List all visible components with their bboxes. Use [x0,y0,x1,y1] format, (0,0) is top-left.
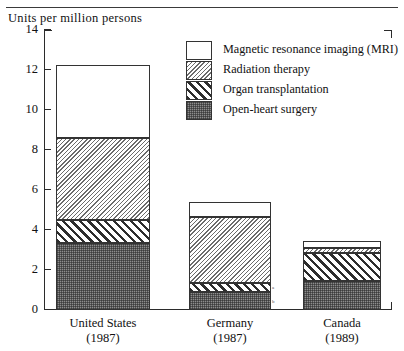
category-label-germany: Germany (1987) [180,316,280,345]
bar-united-states [56,65,150,310]
footnote-mark-b: b [272,299,275,304]
segment-us-radiation [56,138,150,220]
openheart-swatch-icon [186,101,212,120]
ytick-mark-6 [44,189,51,190]
ytick-mark-0 [44,309,51,310]
segment-germany-radiation [189,217,271,283]
ytick-label-10: 10 [8,102,38,117]
segment-canada-openheart [303,281,381,310]
frame-mask-right [387,38,393,302]
ytick-label-12: 12 [8,62,38,77]
mri-swatch-icon [186,41,212,60]
organ-swatch-icon [186,81,212,100]
ytick-mark-12 [44,69,51,70]
legend-label-organ: Organ transplantation [223,82,329,97]
category-name-germany: Germany [180,316,280,331]
bar-canada [303,241,381,310]
ytick-label-4: 4 [8,222,38,237]
category-year-germany: (1987) [180,331,280,346]
segment-germany-openheart [189,292,271,310]
category-name-united-states: United States [43,316,163,331]
ytick-label-0: 0 [8,302,38,317]
ytick-mark-4 [44,229,51,230]
ytick-label-14: 14 [8,22,38,37]
segment-canada-mri [303,241,381,248]
ytick-mark-8 [44,149,51,150]
category-year-canada: (1989) [292,331,392,346]
ytick-mark-10 [44,109,51,110]
category-name-canada: Canada [292,316,392,331]
segment-us-organ [56,220,150,243]
category-label-united-states: United States (1987) [43,316,163,345]
legend-label-mri: Magnetic resonance imaging (MRI) [223,42,398,57]
top-rule [6,7,398,8]
segment-canada-organ [303,253,381,281]
ytick-label-6: 6 [8,182,38,197]
bar-germany [189,202,271,310]
ytick-mark-14 [44,29,51,30]
ytick-label-8: 8 [8,142,38,157]
ytick-mark-2 [44,269,51,270]
radiation-swatch-icon [186,61,212,80]
segment-germany-mri [189,202,271,217]
footnote-mark-a: a [272,285,274,290]
segment-us-mri [56,65,150,138]
category-label-canada: Canada (1989) [292,316,392,345]
segment-us-openheart [56,243,150,310]
legend-label-radiation: Radiation therapy [223,62,310,77]
frame-mask-top [52,29,384,33]
legend-label-openheart: Open-heart surgery [223,102,317,117]
category-year-united-states: (1987) [43,331,163,346]
segment-germany-organ [189,283,271,292]
ytick-label-2: 2 [8,262,38,277]
chart-container: Units per million persons 0 2 4 6 8 10 1… [0,0,404,351]
